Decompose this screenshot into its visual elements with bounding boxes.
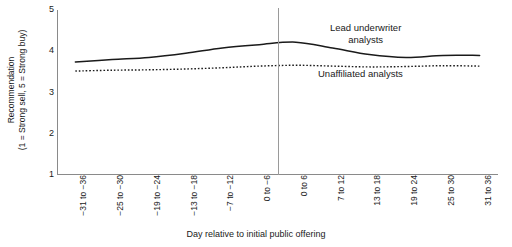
y-axis-tick-label: 1 <box>38 170 54 179</box>
series-label-lead-line1: Lead underwriter <box>330 22 401 34</box>
y-axis-tick-label: 4 <box>38 46 54 55</box>
series-label-lead-underwriter: Lead underwriter analysts <box>330 22 401 46</box>
y-axis-tick-labels: 54321 <box>36 0 54 180</box>
x-axis-tick-label: 13 to 18 <box>362 175 376 227</box>
y-axis-tick-label: 5 <box>38 5 54 14</box>
x-axis-tick-labels: −31 to −36−25 to −30−19 to −24−13 to −18… <box>57 175 498 227</box>
x-axis-tick-label: −7 to −12 <box>215 175 229 227</box>
x-axis-tick-label: −13 to −18 <box>179 175 193 227</box>
y-axis-tick-label: 3 <box>38 88 54 97</box>
x-axis-tick-label: 0 to 6 <box>289 175 303 227</box>
x-axis-title: Day relative to initial public offering <box>0 229 512 239</box>
chart-figure: Recommendation (1 = Strong sell, 5 = Str… <box>0 0 512 247</box>
series-label-lead-line2: analysts <box>330 34 401 46</box>
y-axis-tick-label: 2 <box>38 129 54 138</box>
x-axis-tick-label: 7 to 12 <box>326 175 340 227</box>
x-axis-tick-label: 19 to 24 <box>399 175 413 227</box>
y-axis-title: Recommendation (1 = Strong sell, 5 = Str… <box>0 0 34 180</box>
x-axis-tick-label: −25 to −30 <box>105 175 119 227</box>
y-axis-title-line2: (1 = Strong sell, 5 = Strong buy) <box>17 30 28 150</box>
x-axis-tick-label: 31 to 36 <box>473 175 487 227</box>
x-axis-tick-label: 25 to 30 <box>436 175 450 227</box>
y-axis-title-line1: Recommendation <box>6 30 17 150</box>
ipo-reference-line <box>278 8 279 175</box>
x-axis-tick-label: −31 to −36 <box>68 175 82 227</box>
x-axis-tick-label: 0 to −6 <box>252 175 266 227</box>
x-axis-tick-label: −19 to −24 <box>142 175 156 227</box>
series-label-unaffiliated: Unaffiliated analysts <box>318 68 403 80</box>
